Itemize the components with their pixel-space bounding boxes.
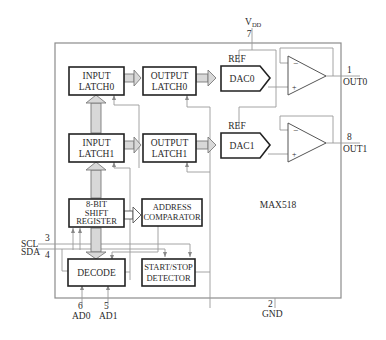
- pin-ad0: 6 AD0: [72, 301, 91, 321]
- amp0-minus-sign: −: [293, 58, 298, 68]
- ad0-label: AD0: [72, 311, 91, 321]
- output-latch1-label-1: OUTPUT: [151, 138, 189, 148]
- scl-pin-number: 3: [45, 233, 50, 243]
- ad0-pin-number: 6: [78, 301, 83, 311]
- max518-block-diagram: INPUT LATCH0 OUTPUT LATCH0 INPUT LATCH1 …: [0, 0, 386, 340]
- output-latch0-block: OUTPUT LATCH0: [143, 67, 196, 95]
- amp1-plus-sign: +: [292, 150, 297, 159]
- out1-pin-number: 8: [347, 132, 352, 142]
- out0-pin-number: 1: [347, 65, 352, 75]
- dac0-label: DAC0: [230, 74, 255, 84]
- data-bus-vertical: [86, 95, 106, 259]
- shift-register-label-3: REGISTER: [76, 216, 117, 226]
- decode-label: DECODE: [77, 268, 116, 278]
- output-latch0-label-1: OUTPUT: [151, 71, 189, 81]
- ad1-label: AD1: [99, 311, 118, 321]
- input-latch0-label-2: LATCH0: [79, 82, 115, 92]
- out0-label: OUT0: [343, 77, 368, 87]
- chip-name-label: MAX518: [260, 200, 297, 210]
- start-stop-detector-block: START/STOP DETECTOR: [142, 259, 195, 286]
- pin-ad1: 5 AD1: [99, 301, 118, 321]
- vdd-label: VDD: [245, 17, 262, 28]
- output-latch1-label-2: LATCH1: [152, 149, 188, 159]
- amp0-plus-sign: +: [292, 83, 297, 92]
- input-latch0-block: INPUT LATCH0: [69, 67, 124, 95]
- dac1-ref-label: REF: [228, 121, 245, 131]
- input-latch1-label-1: INPUT: [83, 138, 111, 148]
- dac0-block: DAC0 REF: [221, 54, 270, 91]
- address-comparator-label-1: ADDRESS: [153, 202, 192, 212]
- start-stop-label-1: START/STOP: [144, 262, 193, 272]
- output-latch1-block: OUTPUT LATCH1: [143, 134, 196, 162]
- gnd-label: GND: [262, 309, 283, 319]
- dac1-block: DAC1 REF: [221, 121, 270, 158]
- input-latch1-block: INPUT LATCH1: [69, 134, 124, 162]
- dac0-ref-label: REF: [228, 54, 245, 64]
- address-comparator-block: ADDRESS COMPARATOR: [142, 199, 202, 226]
- out1-label: OUT1: [343, 144, 368, 154]
- shift-register-block: 8-BIT SHIFT REGISTER: [69, 199, 124, 227]
- input-latch0-label-1: INPUT: [83, 71, 111, 81]
- vdd-pin-number: 7: [247, 29, 252, 39]
- amp1-minus-sign: −: [293, 125, 298, 135]
- amp0: − +: [288, 56, 326, 95]
- sda-label: SDA: [21, 247, 40, 257]
- address-comparator-label-2: COMPARATOR: [143, 212, 200, 222]
- gnd-pin-number: 2: [268, 299, 273, 309]
- sda-pin-number: 4: [45, 250, 50, 260]
- input-latch1-label-2: LATCH1: [79, 149, 115, 159]
- ad1-pin-number: 5: [104, 301, 109, 311]
- amp1: − +: [288, 123, 326, 162]
- pin-gnd: 2 GND: [262, 299, 283, 319]
- output-latch0-label-2: LATCH0: [152, 82, 188, 92]
- decode-block: DECODE: [68, 259, 125, 286]
- start-stop-label-2: DETECTOR: [146, 273, 191, 283]
- dac1-label: DAC1: [230, 141, 255, 151]
- pin-vdd: VDD 7: [245, 17, 262, 39]
